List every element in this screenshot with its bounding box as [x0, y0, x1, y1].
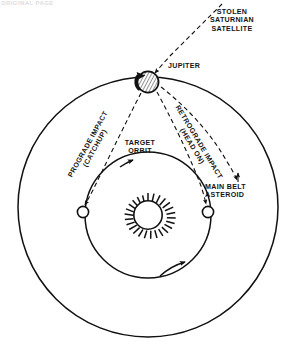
diagram-canvas: ORIGINAL PAGE: [0, 0, 302, 352]
target-body-right: [202, 206, 213, 217]
label-stolen-saturnian-satellite: STOLEN SATURNIAN SATELLITE: [184, 8, 280, 33]
sun-icon: [125, 193, 176, 239]
target-orbit-arrow-top: [120, 160, 133, 167]
label-jupiter: JUPITER: [168, 62, 224, 70]
label-main-belt-asteroid: MAIN BELT ASTEROID: [205, 183, 275, 200]
target-body-left: [77, 206, 88, 217]
orbital-diagram-svg: [0, 0, 302, 352]
jupiter-icon: [134, 71, 158, 92]
label-target-orbit: TARGET ORBIT: [112, 139, 168, 156]
